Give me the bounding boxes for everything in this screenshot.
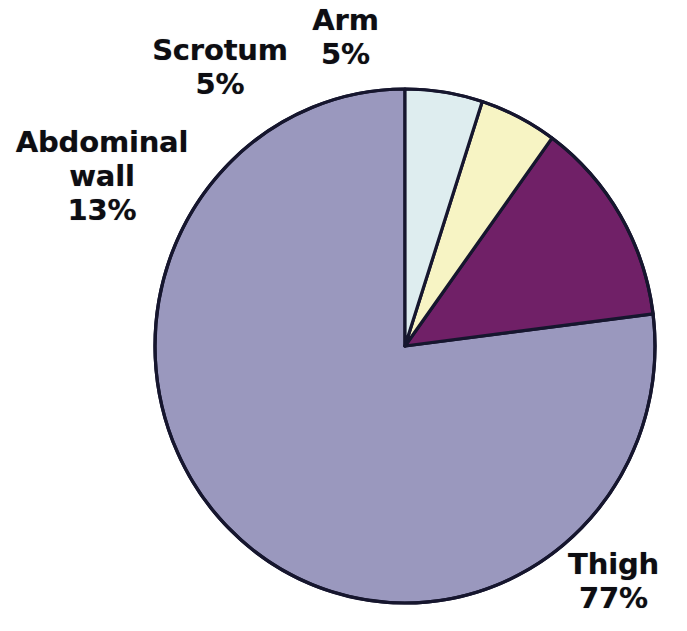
pie-label-thigh: Thigh 77% [540, 548, 687, 616]
pie-label-scrotum: Scrotum 5% [134, 34, 306, 102]
pie-label-thigh-percent: 77% [540, 582, 687, 616]
pie-chart-figure: Arm 5% Scrotum 5% Abdominal wall 13% Thi… [0, 0, 687, 631]
pie-label-abdominal-wall-percent: 13% [6, 194, 198, 228]
pie-slice-group [155, 89, 655, 603]
pie-label-abdominal-wall-name-line2: wall [6, 160, 198, 194]
pie-label-abdominal-wall-name-line1: Abdominal [6, 126, 198, 160]
pie-label-scrotum-percent: 5% [134, 68, 306, 102]
pie-label-thigh-name: Thigh [540, 548, 687, 582]
pie-chart-canvas [0, 0, 687, 631]
pie-label-arm-name: Arm [268, 4, 423, 38]
pie-label-abdominal-wall: Abdominal wall 13% [6, 126, 198, 228]
pie-label-scrotum-name: Scrotum [134, 34, 306, 68]
